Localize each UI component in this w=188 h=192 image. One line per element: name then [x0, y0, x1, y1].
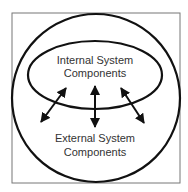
internal-label-line1: Internal System	[57, 54, 133, 66]
internal-label-line2: Components	[64, 67, 127, 79]
system-diagram: Internal System Components External Syst…	[0, 0, 188, 192]
external-label-line1: External System	[55, 132, 135, 144]
external-label-line2: Components	[64, 146, 127, 158]
